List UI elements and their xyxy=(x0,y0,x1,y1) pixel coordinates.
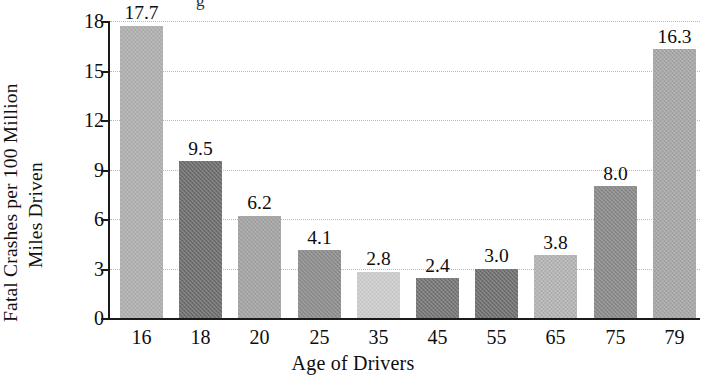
x-axis-tick-label: 55 xyxy=(463,327,530,347)
bar-value-label: 6.2 xyxy=(226,193,293,213)
x-axis-tick-label: 35 xyxy=(345,327,412,347)
y-axis-title-line-2: Miles Driven xyxy=(25,162,47,268)
y-axis-tick xyxy=(101,71,109,73)
x-axis-tick-label: 16 xyxy=(108,327,175,347)
bar-value-label: 3.8 xyxy=(522,233,589,253)
bar xyxy=(594,186,637,318)
bar-value-label: 17.7 xyxy=(108,3,175,23)
x-axis-title: Age of Drivers xyxy=(0,352,706,375)
x-axis-tick-label: 18 xyxy=(167,327,234,347)
y-axis-tick xyxy=(101,269,109,271)
bar xyxy=(357,272,400,318)
bar xyxy=(534,255,577,318)
x-axis-tick-label: 20 xyxy=(226,327,293,347)
bar-value-label: 3.0 xyxy=(463,246,530,266)
bar-value-label: 4.1 xyxy=(286,228,353,248)
bar xyxy=(653,49,696,318)
gridline xyxy=(110,71,700,72)
y-axis-tick xyxy=(101,120,109,122)
x-axis-tick-label: 79 xyxy=(641,327,706,347)
x-axis-tick-label: 25 xyxy=(286,327,353,347)
clipped-title-artifact: g xyxy=(196,0,205,11)
x-axis-tick-label: 45 xyxy=(404,327,471,347)
bar xyxy=(238,216,281,318)
bar-value-label: 8.0 xyxy=(582,164,649,184)
bar-value-label: 2.4 xyxy=(404,256,471,276)
y-axis-tick xyxy=(101,318,109,320)
plot-area: 17.79.56.24.12.82.43.03.88.016.3 xyxy=(108,21,700,320)
x-axis-tick-labels: 16182025354555657579 xyxy=(108,327,700,355)
bar-value-label: 16.3 xyxy=(641,27,706,47)
bar xyxy=(179,161,222,318)
y-axis-tick xyxy=(101,219,109,221)
gridline xyxy=(110,21,700,22)
x-axis-tick-label: 75 xyxy=(582,327,649,347)
y-axis-title: Fatal Crashes per 100 Million Miles Driv… xyxy=(0,0,64,330)
y-axis-tick-labels: 0369121518 xyxy=(60,21,104,322)
y-axis-tick xyxy=(101,170,109,172)
bar xyxy=(298,250,341,318)
x-axis-tick-label: 65 xyxy=(522,327,589,347)
bar xyxy=(416,278,459,318)
bar xyxy=(475,269,518,319)
x-axis-line xyxy=(108,318,700,320)
gridline xyxy=(110,120,700,121)
bar xyxy=(120,26,163,318)
y-axis-title-line-1: Fatal Crashes per 100 Million xyxy=(0,83,22,322)
bar-value-label: 2.8 xyxy=(345,249,412,269)
bar-value-label: 9.5 xyxy=(167,139,234,159)
